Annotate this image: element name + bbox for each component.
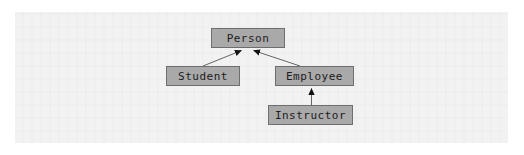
class-node-instructor[interactable]: Instructor	[268, 105, 353, 125]
class-node-label: Student	[178, 71, 228, 82]
diagram-canvas: Person Student Employee Instructor	[0, 0, 524, 155]
edge-student-to-person	[203, 51, 242, 67]
class-node-label: Instructor	[275, 110, 346, 121]
diagram-edges	[0, 0, 524, 155]
class-node-label: Person	[227, 33, 270, 44]
class-node-student[interactable]: Student	[166, 66, 240, 86]
class-node-employee[interactable]: Employee	[275, 66, 354, 86]
class-node-person[interactable]: Person	[211, 28, 285, 48]
edge-employee-to-person	[254, 51, 301, 67]
class-node-label: Employee	[286, 71, 343, 82]
